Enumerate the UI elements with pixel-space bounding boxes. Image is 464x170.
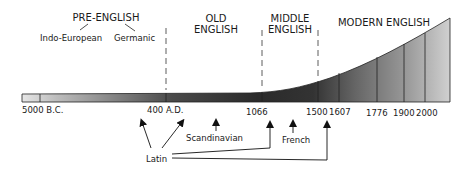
era-old-english-line2: ENGLISH bbox=[194, 24, 238, 35]
year-labels: 5000 B.C. 400 A.D. 1066 1500 1607 1776 1… bbox=[22, 105, 438, 118]
era-old-english-line1: OLD bbox=[205, 13, 226, 24]
influence-french: French bbox=[282, 135, 310, 145]
influence-latin: Latin bbox=[146, 154, 167, 164]
english-history-timeline: PRE-ENGLISH OLD ENGLISH MIDDLE ENGLISH M… bbox=[0, 0, 464, 170]
year-5000bc: 5000 B.C. bbox=[22, 105, 64, 115]
era-pre-english: PRE-ENGLISH bbox=[73, 12, 140, 23]
year-1500: 1500 bbox=[306, 107, 328, 117]
year-2000: 2000 bbox=[416, 108, 438, 118]
year-1607: 1607 bbox=[329, 107, 351, 117]
year-1776: 1776 bbox=[366, 108, 388, 118]
era-middle-english-line1: MIDDLE bbox=[271, 13, 310, 24]
era-middle-english-line2: ENGLISH bbox=[268, 24, 312, 35]
branch-indo-european: Indo-European bbox=[40, 33, 102, 43]
era-dividers bbox=[166, 28, 318, 90]
year-1066: 1066 bbox=[246, 107, 268, 117]
era-modern-english: MODERN ENGLISH bbox=[338, 17, 430, 28]
branch-line-germanic bbox=[125, 24, 135, 31]
branch-germanic: Germanic bbox=[114, 33, 155, 43]
year-1900: 1900 bbox=[393, 108, 415, 118]
branch-line-indo-european bbox=[80, 24, 88, 30]
year-400ad: 400 A.D. bbox=[147, 105, 184, 115]
influence-scandinavian: Scandinavian bbox=[186, 133, 243, 143]
